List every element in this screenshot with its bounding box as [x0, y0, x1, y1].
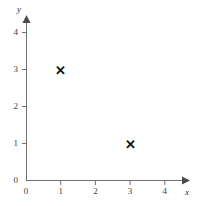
x-tick-label-0: 0: [16, 187, 36, 196]
x-axis-arrowhead: [182, 177, 190, 185]
x-tick-label-4: 4: [155, 187, 175, 196]
x-tick-label-3: 3: [120, 187, 140, 196]
x-axis-label: x: [185, 188, 189, 197]
x-tick-label-1: 1: [51, 187, 71, 196]
y-tick-label-1: 1: [2, 139, 18, 148]
y-axis-label: y: [17, 5, 21, 14]
y-tick-label-0: 0: [2, 176, 18, 185]
y-axis-arrowhead: [23, 15, 31, 23]
data-point-marker: ✕: [125, 137, 136, 150]
y-tick-label-4: 4: [2, 28, 18, 37]
y-tick-label-2: 2: [2, 102, 18, 111]
axes-svg: [0, 0, 199, 206]
y-tick-label-3: 3: [2, 65, 18, 74]
scatter-plot-figure: 0 1 2 3 4 0 1 2 3 4 x y ✕ ✕: [0, 0, 199, 206]
data-point-marker: ✕: [55, 63, 66, 76]
x-tick-label-2: 2: [85, 187, 105, 196]
